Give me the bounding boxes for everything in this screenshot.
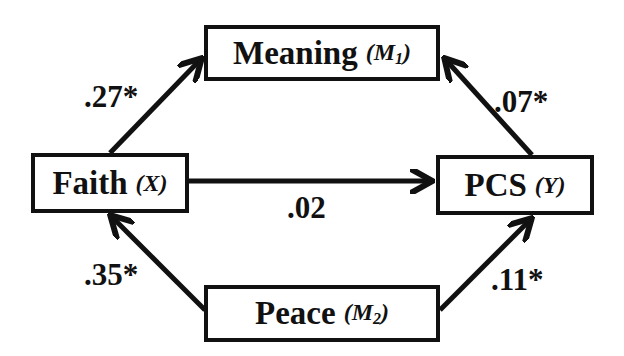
node-pcs-label: PCS (464, 167, 526, 204)
node-meaning-var: (M1) (366, 39, 411, 68)
node-faith-var: (X) (136, 170, 168, 197)
node-pcs-var: (Y) (535, 172, 566, 199)
coef-faith-to-pcs: .02 (287, 192, 326, 223)
node-faith-label: Faith (52, 165, 127, 202)
coef-pcs-to-meaning: .07* (494, 86, 548, 117)
node-peace-label: Peace (255, 295, 336, 332)
node-faith: Faith (X) (31, 153, 189, 213)
node-meaning-label: Meaning (233, 35, 358, 72)
node-peace: Peace (M2) (204, 285, 440, 342)
node-meaning: Meaning (M1) (204, 25, 440, 81)
coef-peace-to-pcs: .11* (491, 264, 544, 295)
node-pcs: PCS (Y) (436, 155, 594, 215)
coef-peace-to-faith: .35* (84, 259, 138, 290)
coef-faith-to-meaning: .27* (84, 81, 138, 112)
node-peace-var: (M2) (344, 299, 389, 328)
